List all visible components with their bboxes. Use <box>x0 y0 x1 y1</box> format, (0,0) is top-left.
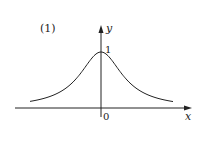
figure-label: (1) <box>40 23 56 34</box>
y-axis-label: y <box>106 23 112 34</box>
x-axis-label: x <box>185 111 191 122</box>
function-graph <box>0 0 202 142</box>
origin-label: 0 <box>103 112 109 122</box>
peak-value-label: 1 <box>105 45 111 55</box>
y-axis-arrow-icon <box>99 25 104 33</box>
